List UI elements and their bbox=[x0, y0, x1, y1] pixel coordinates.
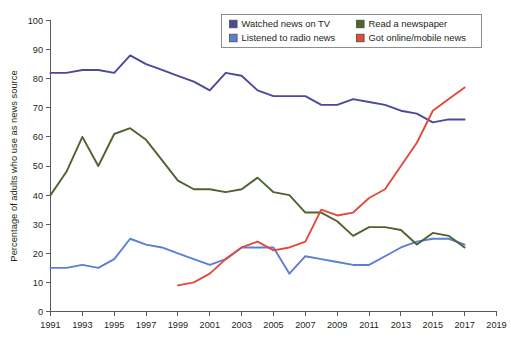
legend-item[interactable]: Watched news on TV bbox=[230, 18, 331, 29]
x-tick-label: 2005 bbox=[263, 320, 283, 330]
series-line-read-a-newspaper bbox=[51, 128, 465, 247]
x-tick-label: 1991 bbox=[40, 320, 60, 330]
legend-item[interactable]: Listened to radio news bbox=[230, 32, 336, 43]
x-tick-label: 1997 bbox=[136, 320, 156, 330]
x-tick-label: 2011 bbox=[359, 320, 379, 330]
legend-label: Read a newspaper bbox=[369, 18, 448, 29]
y-tick-label: 80 bbox=[33, 74, 43, 84]
chart-container: 0102030405060708090100199119931995199719… bbox=[0, 0, 511, 350]
y-tick-label: 0 bbox=[38, 307, 43, 317]
legend-swatch bbox=[357, 34, 365, 42]
legend-label: Listened to radio news bbox=[242, 32, 336, 43]
chart-legend: Watched news on TVRead a newspaperListen… bbox=[222, 15, 482, 48]
y-tick-label: 90 bbox=[33, 45, 43, 55]
x-tick-label: 2019 bbox=[486, 320, 506, 330]
series-line-watched-news-on-tv bbox=[51, 55, 465, 122]
x-tick-label: 2003 bbox=[231, 320, 251, 330]
legend-label: Watched news on TV bbox=[242, 18, 331, 29]
y-tick-label: 50 bbox=[33, 161, 43, 171]
legend-item[interactable]: Read a newspaper bbox=[357, 18, 448, 29]
line-chart: 0102030405060708090100199119931995199719… bbox=[0, 0, 511, 350]
y-tick-label: 10 bbox=[33, 278, 43, 288]
series-line-listened-to-radio-news bbox=[51, 239, 465, 274]
y-tick-label: 100 bbox=[28, 16, 43, 26]
y-axis-title: Percentage of adults who use as news sou… bbox=[8, 70, 19, 261]
legend-label: Got online/mobile news bbox=[369, 32, 467, 43]
x-tick-label: 2013 bbox=[391, 320, 411, 330]
legend-swatch bbox=[230, 34, 238, 42]
x-tick-label: 2007 bbox=[295, 320, 315, 330]
legend-swatch bbox=[230, 20, 238, 28]
x-tick-label: 2001 bbox=[200, 320, 220, 330]
x-tick-label: 1999 bbox=[168, 320, 188, 330]
x-tick-label: 2015 bbox=[423, 320, 443, 330]
legend-swatch bbox=[357, 20, 365, 28]
x-tick-label: 2017 bbox=[454, 320, 474, 330]
y-tick-label: 20 bbox=[33, 249, 43, 259]
x-tick-label: 1995 bbox=[104, 320, 124, 330]
x-tick-label: 2009 bbox=[327, 320, 347, 330]
y-tick-label: 40 bbox=[33, 191, 43, 201]
y-tick-label: 30 bbox=[33, 220, 43, 230]
y-tick-label: 70 bbox=[33, 103, 43, 113]
legend-item[interactable]: Got online/mobile news bbox=[357, 32, 467, 43]
series-layer bbox=[51, 55, 465, 285]
x-tick-label: 1993 bbox=[72, 320, 92, 330]
axes-layer: 0102030405060708090100199119931995199719… bbox=[8, 16, 507, 330]
y-tick-label: 60 bbox=[33, 132, 43, 142]
